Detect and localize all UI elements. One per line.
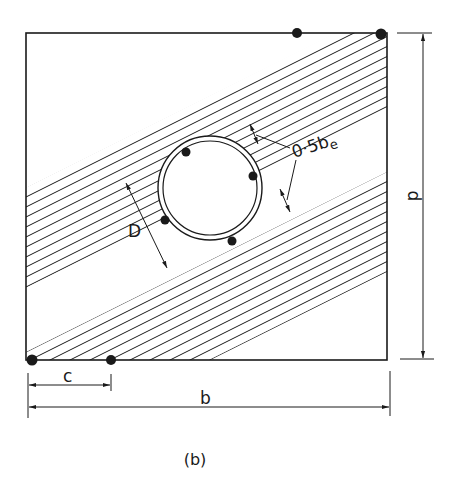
bar-icon — [249, 172, 258, 181]
width-label: b — [200, 388, 211, 408]
bar-icon — [376, 29, 387, 40]
duct — [158, 136, 262, 240]
bar-icon — [27, 355, 38, 366]
bar-icon — [292, 28, 302, 38]
figure-caption: (b) — [184, 450, 207, 469]
bar-icon — [161, 216, 170, 225]
diagram-canvas: D 0·5be d c b (b) — [0, 0, 453, 483]
bar-icon — [182, 148, 191, 157]
cover-label: c — [63, 366, 72, 386]
depth-label: d — [404, 191, 424, 202]
bar-icon — [106, 355, 116, 365]
duct-diameter-label: D — [128, 221, 141, 241]
section-diagram: D 0·5be d c b (b) — [0, 0, 453, 483]
hatched-strips — [0, 0, 453, 483]
bar-icon — [228, 237, 237, 246]
